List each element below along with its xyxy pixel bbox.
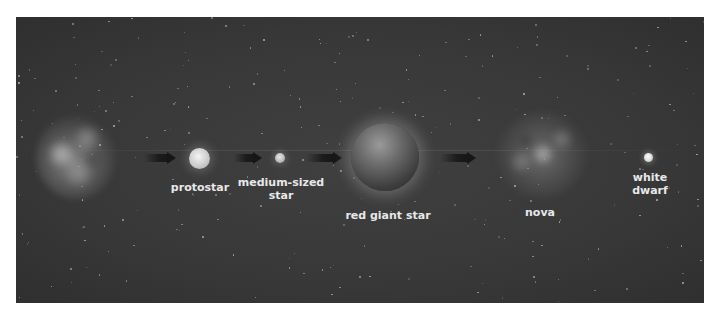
arrow-right-icon	[234, 152, 262, 164]
red-giant-star-label: red giant star	[345, 209, 430, 222]
nova-cloud	[492, 105, 592, 205]
medium-sized-star-sphere	[275, 153, 285, 163]
white-dwarf-label-line1: white	[632, 171, 668, 184]
medium-sized-star-label-line2: star	[238, 189, 324, 202]
protostar-label: protostar	[171, 181, 229, 194]
white-dwarf-label: white dwarf	[632, 171, 668, 197]
nebula-cloud	[32, 109, 120, 205]
nova-label: nova	[525, 206, 555, 219]
arrow-right-icon	[144, 152, 176, 164]
arrow-right-icon	[306, 152, 342, 164]
protostar-sphere	[189, 148, 210, 169]
white-dwarf-sphere	[644, 153, 653, 162]
white-dwarf-label-line2: dwarf	[632, 184, 668, 197]
red-giant-star-sphere	[351, 123, 419, 191]
medium-sized-star-label: medium-sized star	[238, 176, 324, 202]
starfield-panel: protostar medium-sized star red giant st…	[16, 17, 704, 303]
arrow-right-icon	[440, 152, 476, 164]
medium-sized-star-label-line1: medium-sized	[238, 176, 324, 189]
